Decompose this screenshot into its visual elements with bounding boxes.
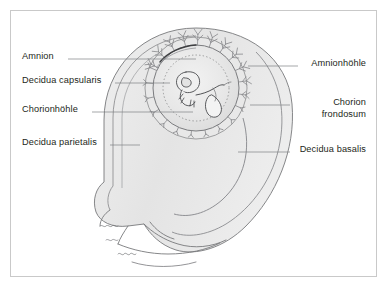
label-chorion-frondosum: Chorion frondosum xyxy=(244,97,366,120)
label-decidua-parietalis-text: Decidua parietalis xyxy=(22,137,97,147)
label-chorion-frondosum-line1: Chorion xyxy=(244,97,366,109)
label-decidua-capsularis-text: Decidua capsularis xyxy=(22,75,101,85)
label-chorionhoehle-text: Chorionhöhle xyxy=(22,104,78,114)
label-chorionhoehle: Chorionhöhle xyxy=(22,104,78,116)
label-amnion-text: Amnion xyxy=(22,51,54,61)
figure-page: Amnion Decidua capsularis Chorionhöhle D… xyxy=(0,0,388,288)
label-amnionhoehle: Amnionhöhle xyxy=(244,58,366,70)
label-decidua-parietalis: Decidua parietalis xyxy=(22,137,97,149)
label-decidua-basalis-text: Decidua basalis xyxy=(300,144,366,154)
label-decidua-basalis: Decidua basalis xyxy=(244,144,366,156)
label-amnionhoehle-text: Amnionhöhle xyxy=(311,58,366,68)
label-decidua-capsularis: Decidua capsularis xyxy=(22,75,101,87)
label-amnion: Amnion xyxy=(22,51,54,63)
label-chorion-frondosum-line2: frondosum xyxy=(244,109,366,121)
